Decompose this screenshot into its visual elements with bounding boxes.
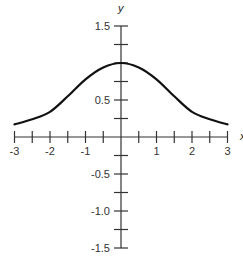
chart: y x -3-2-1123 1.50.5-0.5-1.0-1.5 <box>0 0 243 278</box>
y-axis-label: y <box>117 2 125 14</box>
y-tick-label: -1.5 <box>91 242 110 254</box>
x-tick-label: 2 <box>189 145 195 157</box>
x-tick-label: -1 <box>81 145 91 157</box>
x-tick-label: -3 <box>10 145 20 157</box>
y-tick-label: 1.5 <box>95 20 110 32</box>
y-tick-label: -0.5 <box>91 168 110 180</box>
x-tick-label: 3 <box>224 145 230 157</box>
y-tick-label: 0.5 <box>95 94 110 106</box>
x-tick-label: 1 <box>153 145 159 157</box>
y-tick-label: -1.0 <box>91 205 110 217</box>
x-axis-label: x <box>239 130 243 142</box>
x-tick-label: -2 <box>45 145 55 157</box>
